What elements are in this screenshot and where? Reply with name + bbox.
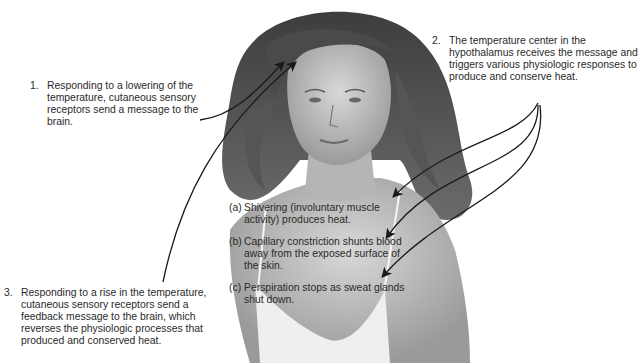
step-3-label: 3. Responding to a rise in the temperatu… — [4, 287, 219, 347]
response-a-label: (a) Shivering (involuntary muscle activi… — [229, 202, 409, 226]
step-number: 1. — [30, 80, 39, 92]
step-2-label: 2. The temperature center in the hypotha… — [432, 35, 642, 83]
step-text: Responding to a lowering of the temperat… — [30, 80, 200, 128]
response-text: Capillary constriction shunts blood away… — [229, 236, 409, 272]
step-text: Responding to a rise in the temperature,… — [4, 287, 219, 347]
step-number: 3. — [4, 287, 13, 299]
response-letter: (b) — [229, 236, 242, 248]
response-letter: (a) — [229, 202, 242, 214]
response-letter: (c) — [229, 282, 241, 294]
response-c-label: (c) Perspiration stops as sweat glands s… — [229, 282, 409, 306]
step-text: The temperature center in the hypothalam… — [432, 35, 642, 83]
step-1-label: 1. Responding to a lowering of the tempe… — [30, 80, 200, 128]
response-text: Perspiration stops as sweat glands shut … — [229, 282, 409, 306]
step-number: 2. — [432, 35, 441, 47]
response-b-label: (b) Capillary constriction shunts blood … — [229, 236, 409, 272]
response-text: Shivering (involuntary muscle activity) … — [229, 202, 409, 226]
